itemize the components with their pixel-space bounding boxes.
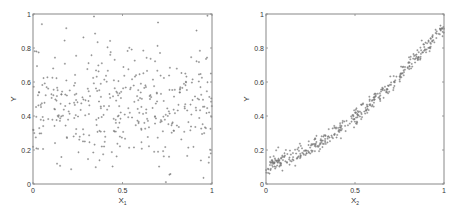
y-tick-label: 0.4 (254, 113, 264, 120)
x-tick-label: 0 (31, 187, 35, 194)
y-tick-label: 1 (260, 11, 264, 18)
x-tick-label: 0.5 (350, 187, 360, 194)
data-points (32, 15, 213, 183)
x-tick-label: 1 (442, 187, 446, 194)
y-tick-label: 0.8 (254, 45, 264, 52)
y-tick-label: 0.2 (254, 147, 264, 154)
axes-frame (33, 14, 212, 184)
scatter-plot-x1: 00.20.40.60.8100.51X1Y (9, 11, 214, 207)
data-points (265, 25, 445, 175)
x-tick-label: 1 (210, 187, 214, 194)
y-axis-label: Y (242, 96, 251, 102)
figure: 00.20.40.60.8100.51X1Y 00.20.40.60.8100.… (0, 0, 460, 211)
x-tick-label: 0.5 (118, 187, 128, 194)
y-tick-label: 0.6 (21, 79, 31, 86)
y-tick-label: 0.8 (21, 45, 31, 52)
y-tick-label: 1 (27, 11, 31, 18)
y-axis-label: Y (9, 96, 18, 102)
y-tick-label: 0.2 (21, 147, 31, 154)
x-axis-label: X1 (118, 196, 126, 206)
x-axis-label: X2 (351, 196, 359, 206)
y-tick-label: 0.6 (254, 79, 264, 86)
scatter-plot-x2: 00.20.40.60.8100.51X2Y (242, 11, 446, 207)
y-tick-label: 0.4 (21, 113, 31, 120)
x-tick-label: 0 (264, 187, 268, 194)
